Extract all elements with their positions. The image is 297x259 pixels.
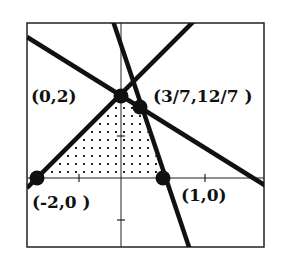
vertex-label-1-0: (1,0) [180, 185, 228, 205]
vertex-dot-1-0 [156, 171, 171, 186]
vertex-label-0-2: (0,2) [30, 86, 78, 106]
vertex-dot-3-7-12-7 [133, 100, 148, 115]
vertex-dot-neg2-0 [30, 171, 45, 186]
vertex-dot-0-2 [114, 89, 129, 104]
vertex-label-neg2-0: (-2,0 ) [31, 192, 92, 212]
vertex-label-3-7-12-7: (3/7,12/7 ) [152, 86, 254, 106]
diagram-canvas [0, 0, 297, 259]
